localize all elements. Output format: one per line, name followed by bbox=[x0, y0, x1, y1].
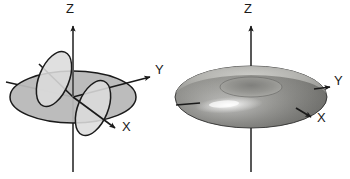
torus-inner-hole bbox=[220, 77, 282, 97]
diagram-svg: Z Y X Z bbox=[0, 0, 350, 179]
right-panel: Z Y X bbox=[175, 1, 343, 172]
left-x-axis-label: X bbox=[122, 119, 131, 134]
left-y-axis-label: Y bbox=[155, 62, 164, 77]
right-x-axis-label: X bbox=[317, 110, 326, 125]
figure-canvas: Z Y X Z bbox=[0, 0, 350, 179]
left-z-axis-label: Z bbox=[66, 1, 74, 16]
right-z-axis-label: Z bbox=[244, 1, 252, 16]
left-panel: Z Y X bbox=[6, 1, 164, 172]
right-y-axis-label: Y bbox=[334, 73, 343, 88]
